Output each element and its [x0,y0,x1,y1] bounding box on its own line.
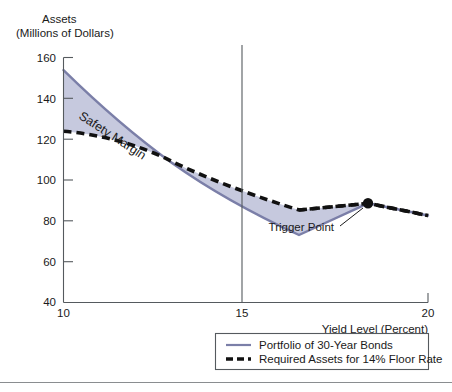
x-tick-label-20: 20 [422,307,435,319]
legend-label-required-assets: Required Assets for 14% Floor Rate [259,353,442,365]
chart-figure: Assets (Millions of Dollars) 160 140 120… [0,0,452,392]
y-axis-title-line1: Assets [42,13,77,25]
y-tick-label-120: 120 [37,134,56,146]
trigger-point-label: Trigger Point [269,221,335,233]
x-tick-label-15: 15 [236,307,249,319]
y-axis-title-line2: (Millions of Dollars) [16,27,114,39]
x-tick-label-10: 10 [57,307,70,319]
chart-legend: Portfolio of 30-Year Bonds Required Asse… [216,334,443,370]
legend-label-portfolio: Portfolio of 30-Year Bonds [259,339,393,351]
y-tick-label-80: 80 [43,215,56,227]
y-tick-label-60: 60 [43,256,56,268]
y-tick-label-100: 100 [37,174,56,186]
y-tick-label-160: 160 [37,52,56,64]
safety-margin-band [64,70,369,235]
y-tick-label-140: 140 [37,93,56,105]
trigger-point-marker [363,198,373,208]
series-portfolio-line [64,70,429,235]
y-tick-label-40: 40 [43,296,56,308]
